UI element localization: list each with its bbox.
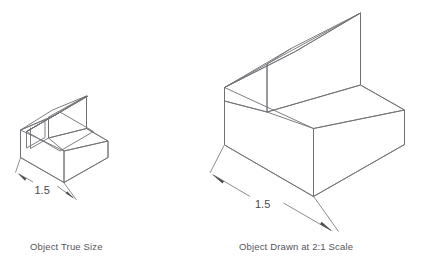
dimension-arrowhead-end (320, 222, 333, 232)
caption-scaled: Object Drawn at 2:1 Scale (239, 241, 353, 252)
true-size-object: 1.5 Object True Size (16, 96, 109, 252)
dimension-1-5-right: 1.5 (210, 146, 339, 232)
dimension-arrowhead-start (18, 173, 27, 181)
dimension-arrowhead-start (211, 174, 224, 184)
dimension-1-5-left: 1.5 (16, 158, 77, 200)
notch-bottom-edge (225, 101, 268, 112)
extension-line-start (16, 158, 21, 173)
dimension-value-left: 1.5 (35, 184, 50, 196)
front-right-face (314, 110, 405, 197)
dimension-line-left-segment (19, 174, 33, 182)
extension-line-start (210, 146, 224, 174)
notch-left-wall (225, 64, 268, 112)
front-right-face (64, 141, 108, 183)
dimension-value-right: 1.5 (255, 198, 270, 210)
scaled-object: 1.5 Object Drawn at 2:1 Scale (210, 13, 405, 252)
front-left-face (21, 130, 65, 183)
caption-true-size: Object True Size (30, 241, 103, 252)
step-riser-face (267, 13, 361, 112)
step-riser-face (49, 96, 87, 138)
dimension-line-left-segment (214, 175, 251, 197)
step-tread-face (267, 85, 405, 129)
front-left-face (225, 88, 314, 197)
technical-drawing-canvas: 1.5 Object True Size (0, 0, 434, 274)
extension-line-end (64, 183, 77, 200)
